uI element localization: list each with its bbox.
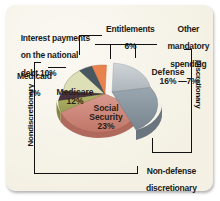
ss-pct: 23% bbox=[97, 121, 114, 131]
bracket-label-nondiscretionary: Nondiscretionary bbox=[26, 84, 35, 147]
bracket-label-discretionary: Discretionary bbox=[194, 60, 203, 109]
leader-medicaid bbox=[48, 67, 66, 68]
interest-line2: on the national bbox=[21, 50, 78, 60]
label-entitlements: Entitlements 6% bbox=[95, 16, 157, 60]
leader-nondefense-h bbox=[152, 152, 182, 153]
other-line1: Other bbox=[177, 24, 199, 34]
leader-interest-horizontal bbox=[80, 35, 102, 36]
bracket-nondiscretionary-top-tick bbox=[34, 62, 41, 63]
bracket-nondiscretionary-bottom bbox=[34, 173, 138, 174]
leader-interest-vertical bbox=[79, 35, 80, 55]
leader-nondefense-v bbox=[152, 138, 153, 153]
medicare-pct: 12% bbox=[66, 96, 83, 106]
entitlements-name: Entitlements bbox=[106, 24, 155, 34]
leader-other-mandatory-h bbox=[135, 44, 157, 45]
bracket-discretionary-vertical bbox=[191, 49, 192, 153]
leader-other-mandatory-v bbox=[135, 44, 136, 58]
nondefense-line2: discretionary bbox=[146, 183, 197, 193]
leader-entitlements-h bbox=[95, 44, 135, 45]
slice-label-social-security: Social Security 23% bbox=[83, 104, 129, 131]
bracket-discretionary-bottom-tick bbox=[182, 152, 192, 153]
bracket-discretionary-top-tick bbox=[184, 49, 192, 50]
nondefense-line1: Non-defense bbox=[147, 166, 196, 176]
leader-entitlements-v bbox=[110, 44, 111, 59]
label-nondefense: Non-defense discretionary 19% bbox=[130, 158, 204, 201]
chart-figure: Defense 16% Medicare 12% Social Security… bbox=[0, 0, 220, 201]
bracket-nondiscretionary-bottom-tick bbox=[137, 166, 138, 174]
